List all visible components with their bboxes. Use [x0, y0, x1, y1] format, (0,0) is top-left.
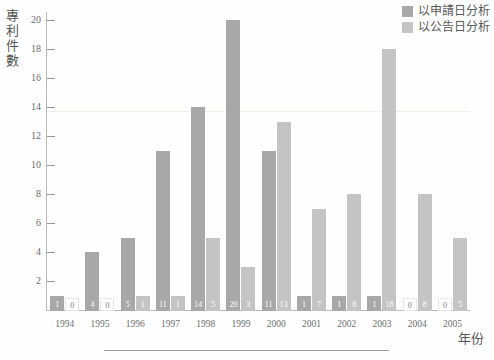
data-label-published: 0 — [65, 298, 79, 311]
data-label-published: 1 — [136, 298, 150, 311]
bar-published[interactable] — [277, 122, 291, 311]
footer-divider — [104, 350, 389, 351]
data-label-applied: 1 — [297, 298, 311, 311]
y-axis-tick-label: 12 — [31, 129, 41, 142]
x-axis-tick-label: 2002 — [329, 318, 364, 331]
bar-published[interactable] — [382, 49, 396, 310]
legend-item-applied[interactable]: 以申請日分析 — [402, 5, 490, 18]
data-label-applied: 4 — [85, 298, 99, 311]
data-label-applied: 1 — [50, 298, 64, 311]
data-label-published: 5 — [453, 298, 467, 311]
bar-group — [294, 20, 329, 310]
data-label-applied: 11 — [156, 298, 170, 311]
data-label-applied: 20 — [226, 298, 240, 311]
bar-group — [364, 20, 399, 310]
y-axis-tick-label: 16 — [31, 71, 41, 84]
chart-screenshot: 以申請日分析 以公告日分析 專 利 件 數 2468101214161820 1… — [0, 0, 494, 360]
y-axis-title: 專 利 件 數 — [4, 8, 21, 68]
x-axis-tick-label: 1995 — [82, 318, 117, 331]
x-axis-tick-label: 2003 — [364, 318, 399, 331]
bar-published[interactable] — [312, 209, 326, 311]
x-axis-title: 年份 — [458, 331, 484, 346]
bar-group — [118, 20, 153, 310]
bar-applied[interactable] — [262, 151, 276, 311]
legend-swatch-applied — [402, 6, 413, 17]
data-label-published: 3 — [241, 298, 255, 311]
data-label-applied: 0 — [403, 298, 417, 311]
x-axis-tick-label: 1998 — [188, 318, 223, 331]
y-axis-title-char-3: 件 — [4, 38, 21, 53]
data-label-published: 8 — [418, 298, 432, 311]
y-axis-title-char-2: 利 — [4, 23, 21, 38]
x-axis-tick-label: 1997 — [153, 318, 188, 331]
data-label-applied: 5 — [121, 298, 135, 311]
bar-group — [153, 20, 188, 310]
x-axis-tick-label: 2005 — [435, 318, 470, 331]
bar-group — [47, 20, 82, 310]
bar-group — [259, 20, 294, 310]
bar-applied[interactable] — [226, 20, 240, 310]
data-label-published: 0 — [100, 298, 114, 311]
bar-group — [188, 20, 223, 310]
data-label-published: 8 — [347, 298, 361, 311]
bar-group — [82, 20, 117, 310]
y-axis-tick-label: 8 — [36, 187, 41, 200]
data-label-applied: 11 — [262, 298, 276, 311]
x-axis-tick-label: 2001 — [294, 318, 329, 331]
data-label-applied: 1 — [332, 298, 346, 311]
bar-group — [435, 20, 470, 310]
data-label-published: 7 — [312, 298, 326, 311]
data-label-published: 18 — [382, 298, 396, 311]
x-axis-tick-labels: 1994199519961997199819992000200120022003… — [47, 318, 470, 332]
x-axis-tick-label: 1996 — [118, 318, 153, 331]
x-axis-tick-label: 1999 — [223, 318, 258, 331]
plot-area: 2468101214161820 — [46, 20, 470, 311]
data-label-applied: 1 — [367, 298, 381, 311]
bar-applied[interactable] — [156, 151, 170, 311]
y-axis-tick-label: 20 — [31, 13, 41, 26]
bar-applied[interactable] — [191, 107, 205, 310]
bar-group — [329, 20, 364, 310]
y-axis-title-char-4: 數 — [4, 53, 21, 68]
y-axis-tick-label: 4 — [36, 245, 41, 258]
y-axis-tick-label: 14 — [31, 100, 41, 113]
bar-published[interactable] — [418, 194, 432, 310]
data-label-published: 13 — [277, 298, 291, 311]
y-axis-tick-label: 2 — [36, 274, 41, 287]
data-label-applied: 0 — [438, 298, 452, 311]
bar-published[interactable] — [347, 194, 361, 310]
legend-label-applied: 以申請日分析 — [418, 5, 490, 18]
y-axis-tick-label: 18 — [31, 42, 41, 55]
y-axis-title-char-1: 專 — [4, 8, 21, 23]
bar-group — [400, 20, 435, 310]
data-label-strip: 104051111145203111317181180805 — [47, 298, 470, 312]
x-axis-tick-label: 2000 — [259, 318, 294, 331]
y-axis-tick-label: 6 — [36, 216, 41, 229]
data-label-published: 5 — [206, 298, 220, 311]
bars-layer — [47, 20, 470, 310]
x-axis-tick-label: 2004 — [400, 318, 435, 331]
bar-group — [223, 20, 258, 310]
y-axis-tick-label: 10 — [31, 158, 41, 171]
data-label-applied: 14 — [191, 298, 205, 311]
x-axis-tick-label: 1994 — [47, 318, 82, 331]
data-label-published: 1 — [171, 298, 185, 311]
